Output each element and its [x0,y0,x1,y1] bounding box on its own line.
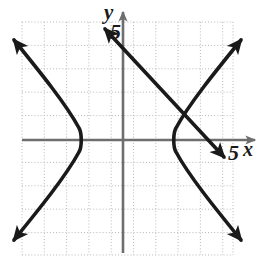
grid-lines [22,22,233,255]
coordinate-plane [0,0,265,258]
x-axis-tick-label-5: 5 [228,142,239,164]
x-axis-label: x [243,139,253,159]
y-axis-tick-label-5: 5 [110,21,121,43]
graph-figure: y 5 x 5 [0,0,265,258]
